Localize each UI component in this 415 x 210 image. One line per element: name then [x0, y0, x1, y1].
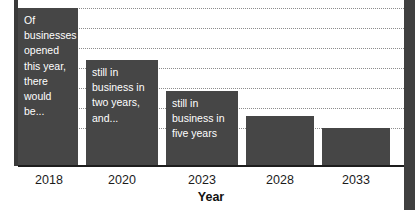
- bar-2023[interactable]: still in business in five years: [166, 91, 238, 165]
- bar-label-2020: still in business in two years, and...: [92, 65, 152, 126]
- x-axis-title: Year: [18, 189, 404, 205]
- x-axis-line: [18, 165, 404, 167]
- bar-label-2023: still in business in five years: [172, 96, 232, 142]
- bar-label-2018: Of businesses opened this year, there wo…: [24, 13, 72, 119]
- plot-area: Of businesses opened this year, there wo…: [18, 0, 404, 167]
- x-tick-2023: 2023: [170, 170, 234, 190]
- x-tick-2018: 2018: [18, 170, 80, 190]
- bar-chart: Of businesses opened this year, there wo…: [0, 0, 415, 210]
- x-tick-2028: 2028: [248, 170, 312, 190]
- bar-2028[interactable]: [246, 116, 314, 165]
- x-tick-2033: 2033: [324, 170, 388, 190]
- bar-2020[interactable]: still in business in two years, and...: [86, 60, 158, 165]
- right-edge-strip: [404, 0, 415, 210]
- bar-2018[interactable]: Of businesses opened this year, there wo…: [18, 8, 78, 165]
- x-tick-2020: 2020: [90, 170, 154, 190]
- bar-2033[interactable]: [322, 128, 390, 165]
